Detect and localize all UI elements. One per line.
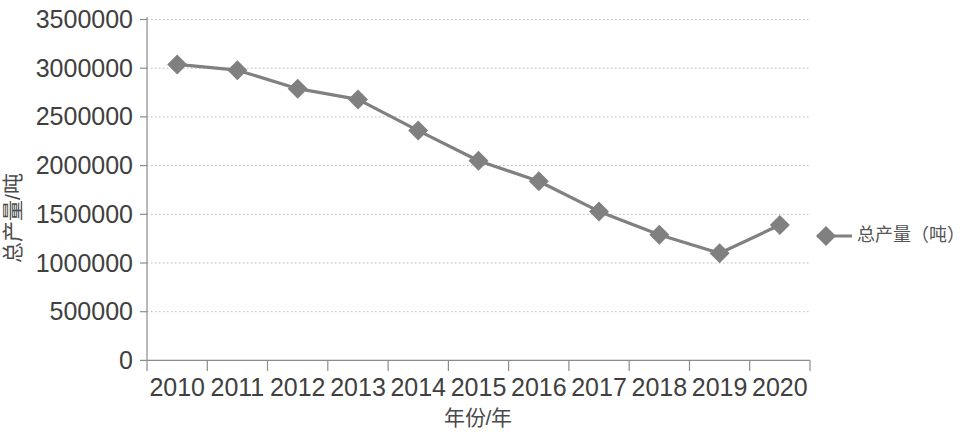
x-tick-label: 2016 bbox=[511, 373, 567, 401]
chart-legend: 总产量（吨） bbox=[816, 225, 965, 246]
data-point-2015 bbox=[469, 151, 489, 171]
data-point-2016 bbox=[529, 171, 549, 191]
y-tick-label: 3000000 bbox=[36, 54, 133, 82]
x-tick-label: 2014 bbox=[390, 373, 446, 401]
x-tickmarks bbox=[147, 360, 810, 371]
x-tick-label: 2020 bbox=[752, 373, 808, 401]
y-tick-label: 1000000 bbox=[36, 249, 133, 277]
y-tick-label: 2000000 bbox=[36, 151, 133, 179]
data-point-2013 bbox=[348, 89, 368, 109]
data-point-2020 bbox=[770, 215, 790, 235]
legend-swatch-marker-icon bbox=[816, 226, 836, 246]
line-chart: 3500000 3000000 2500000 2000000 1500000 … bbox=[0, 0, 975, 437]
x-tick-label: 2018 bbox=[631, 373, 687, 401]
x-tick-label: 2012 bbox=[270, 373, 326, 401]
x-axis-title: 年份/年 bbox=[444, 406, 513, 429]
x-tick-label: 2010 bbox=[149, 373, 205, 401]
x-axis-tick-labels: 2010 2011 2012 2013 2014 2015 2016 2017 … bbox=[149, 373, 807, 401]
y-tick-label: 3500000 bbox=[36, 5, 133, 33]
chart-container: 3500000 3000000 2500000 2000000 1500000 … bbox=[0, 0, 975, 437]
x-tick-label: 2011 bbox=[211, 373, 265, 401]
y-tickmarks bbox=[140, 20, 147, 361]
x-tick-label: 2015 bbox=[451, 373, 507, 401]
data-point-2012 bbox=[288, 79, 308, 99]
data-point-2010 bbox=[167, 54, 187, 74]
y-tick-label: 1500000 bbox=[36, 200, 133, 228]
x-tick-label: 2013 bbox=[330, 373, 386, 401]
data-point-2011 bbox=[227, 60, 247, 80]
data-point-2014 bbox=[408, 121, 428, 141]
y-axis-title: 总产量/吨 bbox=[1, 173, 24, 263]
y-axis-tick-labels: 3500000 3000000 2500000 2000000 1500000 … bbox=[36, 5, 133, 374]
data-point-2019 bbox=[710, 243, 730, 263]
legend-entry-label: 总产量（吨） bbox=[857, 225, 965, 245]
data-point-2018 bbox=[649, 225, 669, 245]
series-markers-total-production bbox=[167, 54, 790, 263]
y-tick-label: 500000 bbox=[50, 297, 133, 325]
data-point-2017 bbox=[589, 201, 609, 221]
y-tick-label: 0 bbox=[119, 346, 133, 374]
x-tick-label: 2017 bbox=[571, 373, 627, 401]
x-tick-label: 2019 bbox=[692, 373, 748, 401]
y-tick-label: 2500000 bbox=[36, 102, 133, 130]
